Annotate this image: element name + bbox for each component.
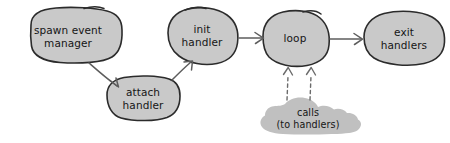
diagram-canvas: spawn event manager attach handler init … [0, 0, 450, 143]
node-init-handler-shape [168, 8, 238, 65]
node-exit-handlers-shape [364, 11, 445, 65]
edge-loop-to-exit [330, 34, 363, 45]
edge-init-to-loop [239, 33, 264, 44]
node-init-handler[interactable] [168, 7, 238, 64]
edge-calls-to-loop-left [284, 68, 293, 101]
diagram-svg [0, 0, 450, 143]
edge-calls-to-loop-right-line [310, 76, 311, 100]
edge-spawn-to-attach [89, 63, 119, 87]
edge-attach-to-init [172, 61, 193, 80]
node-loop[interactable] [263, 11, 329, 67]
edge-calls-to-loop-right [307, 68, 316, 101]
node-loop-shape [263, 11, 329, 67]
edge-calls-to-loop-left-line [287, 76, 288, 100]
node-calls-to-handlers[interactable] [260, 98, 361, 135]
node-calls-to-handlers-shape [260, 98, 361, 135]
node-spawn-event-manager-shape [31, 7, 122, 63]
edge-calls-to-loop-right-arrowhead [307, 68, 316, 76]
edge-calls-to-loop-left-arrowhead [284, 68, 293, 76]
edge-attach-to-init-line [172, 62, 191, 80]
node-spawn-event-manager[interactable] [31, 7, 122, 63]
node-exit-handlers[interactable] [364, 11, 445, 65]
